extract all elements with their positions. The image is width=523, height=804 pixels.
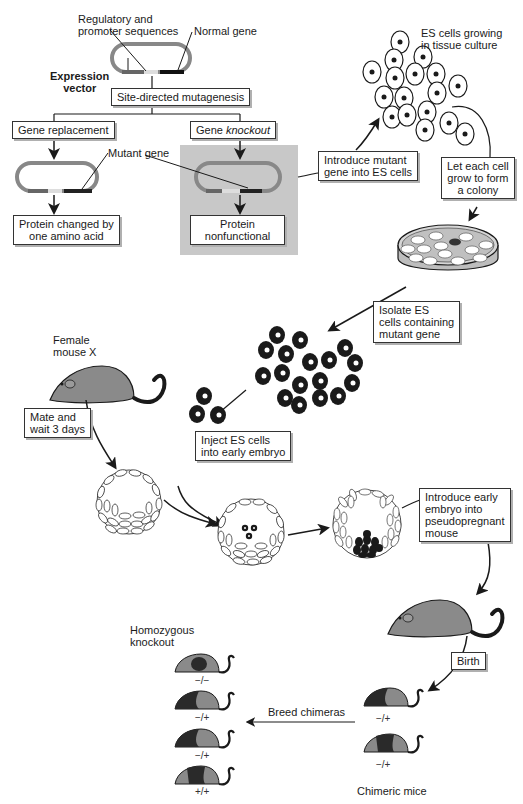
- expression-vector-line-2: vector: [50, 82, 109, 94]
- knockout-diagram: Regulatory and promoter sequences Normal…: [0, 0, 523, 804]
- regulatory-line-2: promoter sequences: [78, 25, 178, 37]
- protein-nonfunctional-line-2: nonfunctional: [196, 230, 279, 242]
- homozygous-line-1: Homozygous: [130, 624, 194, 636]
- inject-es-box: Inject ES cells into early embryo: [195, 431, 291, 461]
- normal-gene-label: Normal gene: [194, 25, 257, 37]
- pseudopregnant-mouse: [388, 600, 502, 637]
- mutant-gene-label: Mutant gene: [108, 147, 169, 159]
- es-growing-line-2: in tissue culture: [421, 39, 502, 51]
- expression-vector-line-1: Expression: [50, 70, 109, 82]
- petri-dish: [398, 225, 498, 270]
- gene-replacement-box: Gene replacement: [12, 121, 115, 139]
- female-mouse-line-2: mouse X: [53, 346, 96, 358]
- let-each-cell-line-3: a colony: [447, 184, 509, 196]
- injected-embryo: [217, 499, 285, 565]
- introduce-embryo-line-1: Introduce early: [425, 491, 505, 503]
- introduce-embryo-box: Introduce early embryo into pseudopregna…: [419, 488, 511, 542]
- early-embryo: [96, 469, 162, 535]
- chimeric-embryo: [333, 488, 401, 558]
- female-mouse-line-1: Female: [53, 334, 96, 346]
- genotype-chimera-1: −/+: [376, 713, 390, 724]
- introduce-embryo-line-2: embryo into: [425, 503, 505, 515]
- homozygous-line-2: knockout: [130, 636, 194, 648]
- genotype-offspring-1: −/−: [195, 675, 209, 686]
- genotype-offspring-3: −/+: [195, 750, 209, 761]
- introduce-mutant-box: Introduce mutant gene into ES cells: [318, 151, 418, 181]
- mate-wait-line-1: Mate and: [30, 411, 85, 423]
- protein-changed-line-1: Protein changed by: [19, 218, 114, 230]
- offspring-mouse-homozygous: [175, 654, 234, 672]
- regulatory-label: Regulatory and promoter sequences: [78, 13, 178, 37]
- expression-vector-label: Expression vector: [50, 70, 109, 94]
- offspring-mouse-het-2: [175, 729, 234, 747]
- isolate-es-line-2: cells containing: [379, 316, 454, 328]
- chimeric-mouse-1: [364, 688, 423, 706]
- mate-wait-line-2: wait 3 days: [30, 423, 85, 435]
- female-mouse-label: Female mouse X: [53, 334, 96, 358]
- offspring-mouse-het-1: [175, 691, 234, 709]
- isolate-es-line-1: Isolate ES: [379, 304, 454, 316]
- let-each-cell-line-2: grow to form: [447, 172, 509, 184]
- mutant-es-cells: [255, 326, 363, 414]
- protein-changed-line-2: one amino acid: [19, 230, 114, 242]
- let-each-cell-line-1: Let each cell: [447, 160, 509, 172]
- chimeric-mice-label: Chimeric mice: [357, 785, 427, 797]
- gene-knockout-box: Gene knockout: [190, 121, 276, 139]
- genotype-chimera-2: −/+: [376, 759, 390, 770]
- regulatory-line-1: Regulatory and: [78, 13, 178, 25]
- gene-knockout-prefix: Gene: [196, 124, 226, 136]
- isolate-es-line-3: mutant gene: [379, 328, 454, 340]
- birth-box: Birth: [451, 652, 486, 670]
- introduce-mutant-line-2: gene into ES cells: [324, 166, 412, 178]
- isolate-es-box: Isolate ES cells containing mutant gene: [373, 301, 460, 343]
- genotype-offspring-2: −/+: [195, 712, 209, 723]
- female-mouse: [50, 366, 164, 403]
- gene-knockout-italic: knockout: [226, 124, 270, 136]
- inject-es-line-1: Inject ES cells: [201, 434, 285, 446]
- site-directed-mutagenesis-box: Site-directed mutagenesis: [111, 88, 250, 106]
- protein-nonfunctional-box: Protein nonfunctional: [190, 215, 285, 245]
- offspring-mouse-wildtype: [175, 766, 234, 784]
- es-cells-growing-label: ES cells growing in tissue culture: [421, 27, 502, 51]
- introduce-embryo-line-3: pseudopregnant: [425, 515, 505, 527]
- introduce-embryo-line-4: mouse: [425, 527, 505, 539]
- protein-nonfunctional-line-1: Protein: [196, 218, 279, 230]
- es-growing-line-1: ES cells growing: [421, 27, 502, 39]
- let-each-cell-box: Let each cell grow to form a colony: [441, 157, 515, 199]
- protein-changed-box: Protein changed by one amino acid: [13, 215, 120, 245]
- homozygous-knockout-label: Homozygous knockout: [130, 624, 194, 648]
- breed-chimeras-label: Breed chimeras: [268, 706, 345, 718]
- genotype-offspring-4: +/+: [195, 786, 209, 797]
- inject-es-line-2: into early embryo: [201, 446, 285, 458]
- introduce-mutant-line-1: Introduce mutant: [324, 154, 412, 166]
- chimeric-mouse-2: [364, 734, 423, 752]
- mate-wait-box: Mate and wait 3 days: [24, 408, 91, 438]
